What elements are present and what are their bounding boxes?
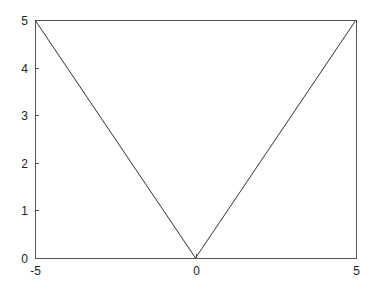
x-tick-label: -5 — [30, 264, 41, 278]
y-tick-label: 0 — [21, 252, 28, 266]
x-tick-label: 5 — [353, 264, 360, 278]
y-tick-label: 5 — [21, 14, 28, 28]
y-tick-label: 2 — [21, 157, 28, 171]
y-tick-label: 3 — [21, 109, 28, 123]
y-tick-label: 4 — [21, 62, 28, 76]
series-line — [35, 20, 356, 258]
data-series — [35, 20, 356, 258]
y-tick-label: 1 — [21, 204, 28, 218]
axes-box — [36, 21, 357, 259]
plot-frame — [36, 21, 357, 259]
x-tick-label: 0 — [193, 264, 200, 278]
y-axis-ticks: 012345 — [21, 14, 39, 266]
line-chart: -505 012345 — [0, 0, 380, 293]
